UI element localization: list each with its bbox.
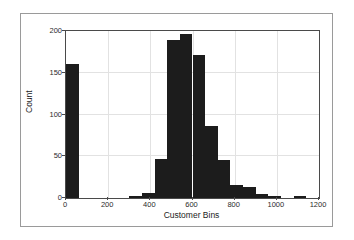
histogram-bar (180, 34, 193, 199)
y-axis-label: Count (24, 90, 34, 113)
x-tick-label: 0 (63, 200, 67, 209)
histogram-bar (218, 160, 231, 198)
gridline-x-800 (235, 31, 236, 198)
x-tick-label: 600 (185, 200, 198, 209)
histogram-figure: 050100150200 020040060080010001200 Custo… (0, 0, 354, 240)
x-tick-label: 400 (143, 200, 156, 209)
y-tick-label: 0 (58, 193, 62, 202)
y-tick-label: 50 (54, 151, 62, 160)
histogram-bar (193, 55, 206, 198)
y-tick-mark (62, 30, 65, 31)
plot-area (66, 31, 319, 198)
x-tick-label: 1200 (310, 200, 327, 209)
y-tick-label: 150 (49, 67, 62, 76)
gridline-x-400 (150, 31, 151, 198)
histogram-bar (155, 159, 168, 198)
y-tick-mark (62, 72, 65, 73)
y-axis-tick-labels: 050100150200 (36, 30, 62, 197)
gridline-x-200 (108, 31, 109, 198)
x-tick-label: 200 (101, 200, 114, 209)
x-tick-label: 1000 (267, 200, 284, 209)
x-axis-label: Customer Bins (65, 210, 318, 220)
y-tick-label: 200 (49, 26, 62, 35)
gridline-x-1000 (277, 31, 278, 198)
x-tick-label: 800 (227, 200, 240, 209)
histogram-bar (167, 40, 180, 198)
y-tick-mark (62, 114, 65, 115)
y-axis-tick-marks (62, 30, 66, 197)
y-tick-mark (62, 155, 65, 156)
histogram-bar (205, 126, 218, 198)
histogram-bar (66, 64, 79, 198)
y-tick-label: 100 (49, 109, 62, 118)
plot-axes-frame (65, 30, 320, 199)
